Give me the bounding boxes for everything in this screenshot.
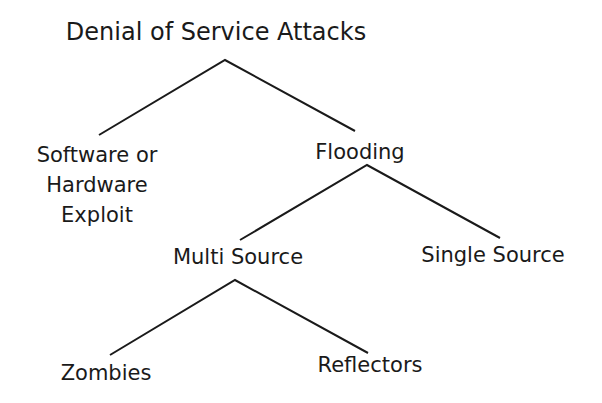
node-single-source: Single Source	[421, 240, 564, 270]
node-exploit: Software or Hardware Exploit	[37, 140, 158, 230]
node-exploit-line1: Software or	[37, 140, 158, 170]
node-exploit-line2: Hardware	[37, 170, 158, 200]
node-exploit-line3: Exploit	[37, 200, 158, 230]
node-flooding: Flooding	[315, 137, 404, 167]
dos-taxonomy-diagram: Denial of Service Attacks Software or Ha…	[0, 0, 602, 403]
edge-multi-source	[110, 280, 368, 355]
node-multi-source: Multi Source	[173, 242, 303, 272]
node-reflectors: Reflectors	[318, 350, 423, 380]
diagram-title: Denial of Service Attacks	[66, 17, 366, 47]
node-zombies: Zombies	[61, 358, 152, 388]
edge-flooding	[240, 165, 500, 240]
edge-root	[99, 60, 355, 135]
